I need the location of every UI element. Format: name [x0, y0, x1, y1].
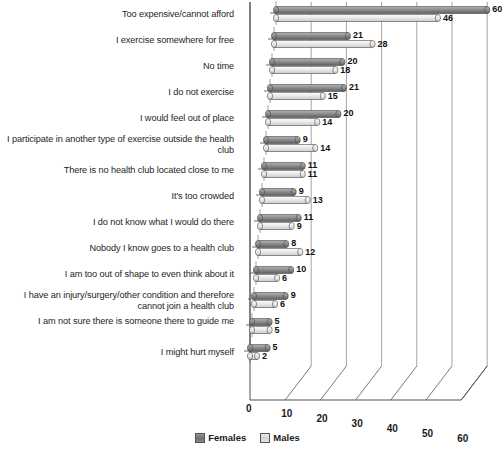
bar-females-8[interactable]	[263, 137, 300, 144]
x-tick-20: 20	[316, 413, 327, 424]
value-label-females-2: 9	[291, 291, 296, 300]
bar-males-2[interactable]	[251, 301, 277, 308]
bar-females-11[interactable]	[269, 59, 345, 66]
category-label-7: There is no health club located close to…	[0, 165, 234, 176]
x-tick-0: 0	[246, 403, 252, 414]
value-label-males-5: 9	[297, 222, 302, 231]
value-label-females-3: 10	[296, 265, 306, 274]
x-tick-10: 10	[281, 408, 292, 419]
bar-males-12[interactable]	[271, 41, 375, 48]
value-label-females-4: 8	[291, 239, 296, 248]
value-label-males-6: 13	[313, 196, 323, 205]
bar-males-8[interactable]	[263, 145, 317, 152]
bar-females-4[interactable]	[255, 241, 288, 248]
category-label-2: I have an injury/surgery/other condition…	[0, 290, 234, 311]
category-label-4: Nobody I know goes to a health club	[0, 243, 234, 254]
bar-males-9[interactable]	[265, 119, 319, 126]
bar-males-0[interactable]	[247, 353, 259, 360]
value-label-males-13: 46	[443, 14, 453, 23]
value-label-males-3: 6	[282, 274, 287, 283]
value-label-females-6: 9	[299, 187, 304, 196]
category-label-0: I might hurt myself	[0, 347, 234, 358]
value-label-males-9: 14	[322, 118, 332, 127]
value-label-females-12: 21	[353, 31, 363, 40]
category-label-1: I am not sure there is someone there to …	[0, 316, 234, 327]
bar-males-6[interactable]	[259, 197, 310, 204]
legend-swatch-females-icon	[195, 433, 205, 443]
bar-males-4[interactable]	[255, 249, 302, 256]
category-label-5: I do not know what I would do there	[0, 217, 234, 228]
bar-males-3[interactable]	[253, 275, 279, 282]
value-label-males-2: 6	[280, 300, 285, 309]
value-label-females-13: 60	[492, 5, 502, 14]
category-label-12: I exercise somewhere for free	[0, 35, 234, 46]
bar-males-10[interactable]	[267, 93, 325, 100]
bar-females-7[interactable]	[261, 163, 305, 170]
category-label-6: It's too crowded	[0, 191, 234, 202]
category-label-13: Too expensive/cannot afford	[0, 9, 234, 20]
value-label-males-11: 18	[340, 66, 350, 75]
value-label-females-5: 11	[304, 213, 314, 222]
value-label-males-8: 14	[320, 144, 330, 153]
value-label-males-0: 2	[262, 352, 267, 361]
bar-females-13[interactable]	[273, 7, 489, 14]
value-label-males-10: 15	[328, 92, 338, 101]
value-label-males-7: 11	[308, 170, 318, 179]
bar-females-1[interactable]	[249, 319, 272, 326]
category-label-10: I do not exercise	[0, 87, 234, 98]
value-label-males-1: 5	[275, 326, 280, 335]
category-label-3: I am too out of shape to even think abou…	[0, 269, 234, 280]
bar-females-5[interactable]	[257, 215, 301, 222]
value-label-females-9: 20	[343, 109, 353, 118]
chart-legend: Females Males	[0, 432, 495, 443]
category-label-8: I participate in another type of exercis…	[0, 134, 234, 155]
value-label-females-8: 9	[303, 135, 308, 144]
plot-svg	[238, 0, 495, 440]
category-label-11: No time	[0, 61, 234, 72]
x-tick-30: 30	[352, 418, 363, 429]
legend-item-males[interactable]: Males	[260, 432, 299, 443]
value-label-males-4: 12	[305, 248, 315, 257]
bar-males-11[interactable]	[269, 67, 338, 74]
plot-area: 5255961068121199131111914201421152018212…	[238, 0, 495, 440]
legend-swatch-males-icon	[260, 433, 270, 443]
category-axis-labels: I might hurt myselfI am not sure there i…	[0, 0, 238, 400]
legend-label-females: Females	[208, 432, 246, 443]
bar-males-7[interactable]	[261, 171, 305, 178]
value-label-females-10: 21	[349, 83, 359, 92]
bar-males-13[interactable]	[273, 15, 440, 22]
bar-males-5[interactable]	[257, 223, 294, 230]
value-label-males-12: 28	[378, 40, 388, 49]
bar-females-3[interactable]	[253, 267, 293, 274]
bar-females-6[interactable]	[259, 189, 296, 196]
bar-males-1[interactable]	[249, 327, 272, 334]
value-label-females-0: 5	[273, 343, 278, 352]
bar-females-12[interactable]	[271, 33, 350, 40]
legend-label-males: Males	[273, 432, 299, 443]
legend-item-females[interactable]: Females	[195, 432, 246, 443]
category-label-9: I would feel out of place	[0, 113, 234, 124]
